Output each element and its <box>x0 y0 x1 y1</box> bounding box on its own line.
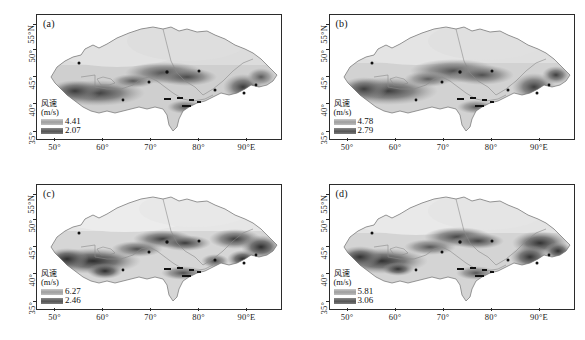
y-tick-label: 35° <box>26 132 36 145</box>
map-frame-b: (b) <box>329 14 575 140</box>
y-tick-label: 45° <box>26 247 36 260</box>
colorbar-swatch-high <box>41 119 63 125</box>
x-tick-label: 90°E <box>530 312 548 322</box>
legend-b: 风速 (m/s) 4.78 2.79 <box>334 100 374 135</box>
x-tick-label: 80° <box>485 312 498 322</box>
y-tick-label: 50° <box>319 50 329 63</box>
map-frame-c: (c) <box>36 184 282 310</box>
y-tick-label: 35° <box>319 302 329 315</box>
y-tick-label: 40° <box>319 274 329 287</box>
y-tick-label: 35° <box>26 302 36 315</box>
x-tick-label: 70° <box>144 142 157 152</box>
legend-value-low: 2.46 <box>65 296 81 306</box>
panel-b: 35° 40° 45° 50° 55°N (b) <box>293 0 585 170</box>
y-axis-d: 35° 40° 45° 50° 55°N <box>293 184 329 308</box>
legend-row-low: 2.79 <box>334 127 374 135</box>
panel-c: 35° 40° 45° 50° 55°N (c) <box>0 170 293 340</box>
y-axis-a: 35° 40° 45° 50° 55°N <box>0 14 36 138</box>
legend-value-low: 3.06 <box>358 296 374 306</box>
legend-d: 风速 (m/s) 5.81 3.06 <box>334 270 374 305</box>
x-tick-label: 50° <box>48 142 61 152</box>
x-tick-label: 70° <box>144 312 157 322</box>
colorbar-swatch-high <box>334 119 356 125</box>
x-tick-label: 80° <box>485 142 498 152</box>
panel-d: 35° 40° 45° 50° 55°N (d) <box>293 170 585 340</box>
x-tick-label: 60° <box>389 142 402 152</box>
x-axis-c: 50° 60° 70° 80° 90°E <box>36 308 280 326</box>
y-tick-label: 35° <box>319 132 329 145</box>
legend-c: 风速 (m/s) 6.27 2.46 <box>41 270 81 305</box>
y-tick-label: 45° <box>26 77 36 90</box>
legend-a: 风速 (m/s) 4.41 2.07 <box>41 100 81 135</box>
x-tick-label: 60° <box>389 312 402 322</box>
colorbar-swatch-high <box>41 289 63 295</box>
colorbar-swatch-low <box>334 298 356 304</box>
colorbar-swatch-low <box>41 128 63 134</box>
legend-value-low: 2.79 <box>358 126 374 136</box>
panel-label-a: (a) <box>43 18 55 29</box>
y-tick-label: 55°N <box>319 195 329 214</box>
y-tick-label: 50° <box>26 220 36 233</box>
x-tick-label: 50° <box>341 312 354 322</box>
x-tick-label: 90°E <box>238 312 256 322</box>
y-tick-label: 50° <box>319 220 329 233</box>
legend-value-low: 2.07 <box>65 126 81 136</box>
panel-label-d: (d) <box>336 188 348 199</box>
x-tick-label: 60° <box>96 142 109 152</box>
y-tick-label: 40° <box>26 274 36 287</box>
panel-label-b: (b) <box>336 18 348 29</box>
y-axis-b: 35° 40° 45° 50° 55°N <box>293 14 329 138</box>
y-tick-label: 40° <box>26 104 36 117</box>
legend-row-low: 3.06 <box>334 297 374 305</box>
x-tick-label: 60° <box>96 312 109 322</box>
y-tick-label: 50° <box>26 50 36 63</box>
y-tick-label: 55°N <box>319 25 329 44</box>
y-tick-label: 45° <box>319 247 329 260</box>
colorbar-swatch-high <box>334 289 356 295</box>
y-axis-c: 35° 40° 45° 50° 55°N <box>0 184 36 308</box>
panel-a: 35° 40° 45° 50° 55°N (a) <box>0 0 293 170</box>
x-tick-label: 80° <box>192 142 205 152</box>
x-tick-label: 90°E <box>238 142 256 152</box>
legend-row-low: 2.46 <box>41 297 81 305</box>
y-tick-label: 45° <box>319 77 329 90</box>
x-tick-label: 70° <box>437 312 450 322</box>
y-tick-label: 55°N <box>26 195 36 214</box>
x-axis-b: 50° 60° 70° 80° 90°E <box>329 138 573 156</box>
x-tick-label: 50° <box>341 142 354 152</box>
x-tick-label: 70° <box>437 142 450 152</box>
figure-canvas: 35° 40° 45° 50° 55°N (a) <box>0 0 585 340</box>
colorbar-swatch-low <box>41 298 63 304</box>
map-frame-d: (d) <box>329 184 575 310</box>
x-tick-label: 90°E <box>530 142 548 152</box>
y-tick-label: 40° <box>319 104 329 117</box>
x-axis-a: 50° 60° 70° 80° 90°E <box>36 138 280 156</box>
x-tick-label: 80° <box>192 312 205 322</box>
colorbar-swatch-low <box>334 128 356 134</box>
map-frame-a: (a) <box>36 14 282 140</box>
x-axis-d: 50° 60° 70° 80° 90°E <box>329 308 573 326</box>
legend-row-low: 2.07 <box>41 127 81 135</box>
panel-label-c: (c) <box>43 188 55 199</box>
x-tick-label: 50° <box>48 312 61 322</box>
y-tick-label: 55°N <box>26 25 36 44</box>
